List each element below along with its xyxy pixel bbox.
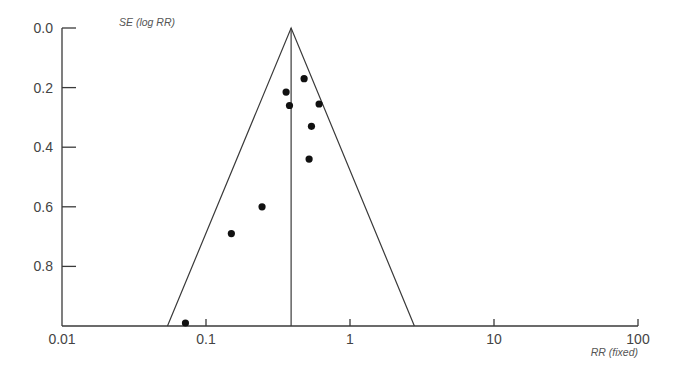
study-point [315,100,322,107]
x-axis-ticks: 0.010.1110100 [48,319,650,347]
study-point [306,156,313,163]
y-tick-label: 0.6 [34,199,54,215]
x-tick-label: 1 [346,331,354,347]
x-tick-label: 0.1 [196,331,216,347]
x-tick-label: 0.01 [48,331,75,347]
study-point [300,75,307,82]
y-tick-label: 0.0 [34,20,54,36]
study-point [258,203,265,210]
y-tick-label: 0.8 [34,258,54,274]
study-point [182,319,189,326]
y-tick-label: 0.2 [34,80,54,96]
y-axis-ticks: 0.00.20.40.60.8 [34,20,76,274]
funnel-plot: 0.00.20.40.60.8 0.010.1110100 SE (log RR… [0,0,675,373]
x-tick-label: 10 [486,331,502,347]
study-points [182,75,323,327]
axes: 0.00.20.40.60.8 0.010.1110100 [34,20,650,347]
x-axis-title: RR (fixed) [591,346,638,358]
y-tick-label: 0.4 [34,139,54,155]
study-point [283,88,290,95]
study-point [228,230,235,237]
y-axis-title: SE (log RR) [119,16,175,28]
study-point [286,102,293,109]
x-tick-label: 100 [626,331,650,347]
funnel-triangle [167,28,414,326]
study-point [308,123,315,130]
